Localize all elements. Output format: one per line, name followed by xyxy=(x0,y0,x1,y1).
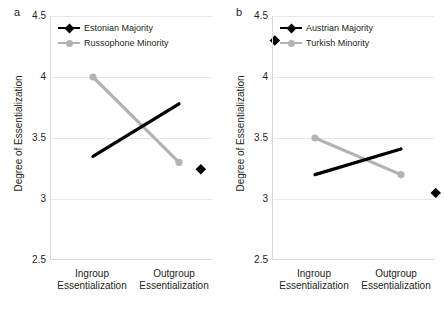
panel-b-ytick-3: 3 xyxy=(234,194,268,204)
panel-a-legend-item-russophone-minority: Russophone Minority xyxy=(58,35,216,50)
panel-a: a Degree of Essentialization 4.5 4 3.5 3… xyxy=(0,0,222,328)
panel-a-xtick-outgroup-line2: Essentialization xyxy=(122,280,226,292)
panel-b-legend-item-turkish-minority: Turkish Minority xyxy=(280,35,438,50)
panel-a-legend-label-estonian-majority: Estonian Majority xyxy=(84,23,153,33)
panel-b-series-layer xyxy=(273,16,435,260)
panel-a-ytick-4: 4 xyxy=(12,72,46,82)
panel-a-ytick-2-5: 2.5 xyxy=(12,255,46,265)
panel-b-legend-label-turkish-minority: Turkish Minority xyxy=(306,38,369,48)
panel-b-ytick-3-5: 3.5 xyxy=(234,133,268,143)
panel-b-ytick-4-5: 4.5 xyxy=(234,11,268,21)
panel-b-ytick-4: 4 xyxy=(234,72,268,82)
panel-b-ytick-2-5: 2.5 xyxy=(234,255,268,265)
panel-a-legend: Estonian Majority Russophone Minority xyxy=(58,20,216,50)
panel-b-plot-area xyxy=(272,16,434,260)
panel-a-xtick-outgroup: Outgroup Essentialization xyxy=(122,268,226,292)
panel-b-legend: Austrian Majority Turkish Minority xyxy=(280,20,438,50)
figure-two-panel-line-charts: a Degree of Essentialization 4.5 4 3.5 3… xyxy=(0,0,444,328)
panel-a-ytick-3-5: 3.5 xyxy=(12,133,46,143)
panel-a-plot-area xyxy=(50,16,212,260)
panel-a-legend-swatch-gray-circle-icon xyxy=(58,37,80,48)
panel-a-legend-item-estonian-majority: Estonian Majority xyxy=(58,20,216,35)
panel-b: b Degree of Essentialization 4.5 4 3.5 3… xyxy=(222,0,444,328)
panel-a-xtick-outgroup-line1: Outgroup xyxy=(122,268,226,280)
panel-b-xtick-outgroup-line1: Outgroup xyxy=(344,268,444,280)
panel-b-xtick-outgroup-line2: Essentialization xyxy=(344,280,444,292)
panel-a-legend-label-russophone-minority: Russophone Minority xyxy=(84,38,169,48)
panel-b-legend-label-austrian-majority: Austrian Majority xyxy=(306,23,373,33)
panel-b-legend-swatch-gray-circle-icon xyxy=(280,37,302,48)
panel-a-legend-swatch-black-diamond-icon xyxy=(58,22,80,33)
panel-a-series-russophone-minority xyxy=(89,73,182,166)
panel-b-legend-swatch-black-diamond-icon xyxy=(280,22,302,33)
panel-b-legend-item-austrian-majority: Austrian Majority xyxy=(280,20,438,35)
panel-b-xtick-outgroup: Outgroup Essentialization xyxy=(344,268,444,292)
panel-a-ytick-4-5: 4.5 xyxy=(12,11,46,21)
panel-a-ytick-3: 3 xyxy=(12,194,46,204)
panel-a-series-layer xyxy=(51,16,213,260)
